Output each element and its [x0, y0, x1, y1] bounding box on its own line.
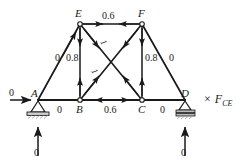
scale-factor-subscript: CE	[222, 99, 232, 108]
roller-support-D	[176, 101, 195, 119]
truss-structure-graphic	[0, 0, 252, 165]
joint-B	[78, 98, 83, 103]
member-force-label-EF: 0.6	[102, 11, 115, 21]
force-arrow-EC-bottom	[123, 76, 138, 95]
force-arrow-BF-top	[123, 29, 138, 48]
member-force-label-AE: 0	[55, 53, 60, 63]
joint-C	[140, 98, 145, 103]
node-label-E: E	[75, 8, 82, 19]
member-force-label-AB: 0	[57, 105, 62, 115]
member-force-label-CD: 0	[160, 105, 165, 115]
force-arrow-BF-bottom	[84, 76, 99, 95]
node-label-C: C	[138, 104, 145, 115]
member-force-label-BC: 0.6	[104, 105, 117, 115]
scale-factor-annotation: ×FCE	[204, 93, 232, 108]
reaction-value-left: 0	[34, 148, 39, 158]
joint-E	[78, 22, 83, 27]
node-label-D: D	[181, 88, 189, 99]
node-label-B: B	[76, 104, 83, 115]
reaction-value-right: 0	[181, 148, 186, 158]
member-force-label-FC: 0.8	[145, 53, 158, 63]
multiply-icon: ×	[204, 92, 211, 106]
member-force-label-EB: 0.8	[66, 53, 79, 63]
node-label-F: F	[138, 8, 145, 19]
truss-diagram-figure: E F A B C D 0.6 0 0.8 0.8 0 1 1 0 0.6 0 …	[0, 0, 252, 165]
force-arrow-EC-top	[84, 29, 99, 48]
member-force-label-FD: 0	[169, 53, 174, 63]
pin-support-A	[27, 101, 49, 119]
node-label-A: A	[31, 88, 38, 99]
load-value-horizontal-A: 0	[9, 88, 14, 98]
joint-F	[140, 22, 145, 27]
